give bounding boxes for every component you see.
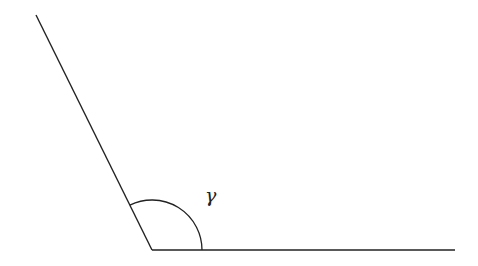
ray-left-line: [36, 15, 152, 250]
angle-diagram: [0, 0, 478, 266]
angle-arc: [130, 200, 202, 250]
angle-label-gamma: γ: [205, 186, 216, 205]
